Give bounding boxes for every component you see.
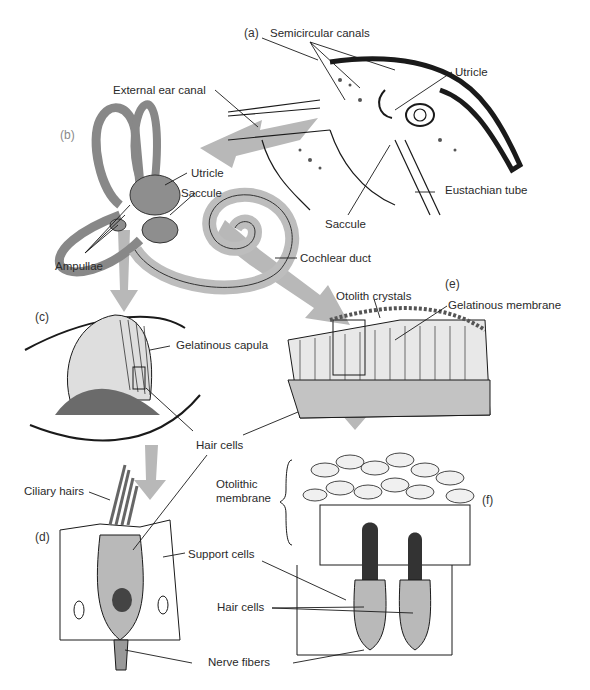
label-otolith-crystals: Otolith crystals (336, 290, 411, 303)
panel-label-b: (b) (60, 128, 75, 142)
panel-label-c: (c) (35, 310, 49, 324)
otolithic-f (280, 453, 474, 655)
label-saccule-a: Saccule (325, 218, 366, 231)
label-support-cells: Support cells (188, 548, 254, 561)
label-utricle-a: Utricle (455, 66, 488, 79)
panel-label-f: (f) (482, 493, 493, 507)
brace (280, 460, 292, 545)
label-eustachian-tube: Eustachian tube (445, 184, 527, 197)
label-utricle-b: Utricle (191, 167, 224, 180)
label-hair-cells-top: Hair cells (196, 439, 243, 452)
label-otolithic-membrane-line1: Otolithic (216, 478, 258, 491)
label-ciliary-hairs: Ciliary hairs (24, 485, 84, 498)
label-gelatinous-capula: Gelatinous capula (176, 339, 268, 352)
macula-e (288, 308, 490, 418)
diagram-artwork (0, 0, 590, 690)
label-otolithic-membrane-line2: membrane (216, 492, 271, 505)
label-nerve-fibers: Nerve fibers (208, 656, 270, 669)
label-semicircular-canals: Semicircular canals (270, 27, 370, 40)
label-gelatinous-membrane: Gelatinous membrane (448, 299, 561, 312)
bone-stipple (299, 78, 457, 170)
label-ampullae: Ampullae (55, 260, 103, 273)
ampulla-c (25, 315, 200, 440)
label-external-ear-canal: External ear canal (113, 84, 206, 97)
label-cochlear-duct: Cochlear duct (300, 252, 371, 265)
arrow-a-to-b (200, 118, 318, 168)
panel-label-a: (a) (244, 26, 259, 40)
label-hair-cells-bottom: Hair cells (217, 601, 264, 614)
panel-label-d: (d) (35, 530, 50, 544)
panel-label-e: (e) (445, 277, 460, 291)
arrow-c-to-d (134, 445, 166, 500)
label-saccule-b: Saccule (181, 187, 222, 200)
